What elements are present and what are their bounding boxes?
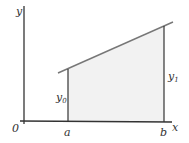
shaded-region <box>68 27 164 121</box>
b-label: b <box>160 126 167 139</box>
y0-label: y0 <box>55 91 67 105</box>
origin-label: 0 <box>12 122 19 135</box>
x-axis <box>20 121 172 122</box>
y1-label: y1 <box>167 70 179 84</box>
area-diagram: y x 0 a b y0 y1 <box>0 0 189 143</box>
a-label: a <box>64 126 71 139</box>
y-axis-label: y <box>15 5 23 18</box>
x-axis-label: x <box>172 121 179 134</box>
